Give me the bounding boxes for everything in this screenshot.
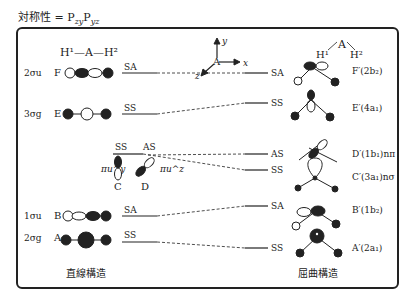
walsh-diagram: H¹—A—H² y A x z A H¹ H² [0, 0, 416, 308]
orbital-a-icon [61, 232, 111, 248]
bent-name-b: B′(1b₂) [352, 205, 383, 215]
linear-header: H¹—A—H² [60, 46, 118, 59]
bent-levels [245, 73, 268, 248]
axis-y-label: y [221, 36, 228, 46]
orbital-d-icon [134, 156, 156, 178]
sym-piuz: πu^z [159, 164, 184, 174]
bent-name-f: F′(2b₂) [352, 66, 382, 76]
orbital-b-prime-icon [292, 206, 340, 230]
bent-name-e: E′(4a₁) [352, 103, 382, 113]
orbital-e-prime-icon [291, 90, 334, 121]
orbital-b-icon [63, 211, 111, 221]
letter-e: E [54, 108, 61, 119]
orbital-f-icon [65, 68, 113, 78]
bent-caption: 屈曲構造 [298, 267, 338, 279]
label-d: AS [142, 142, 156, 152]
letter-a: A [53, 232, 62, 243]
linear-orbital-icons [61, 68, 156, 248]
letter-c: C [114, 181, 122, 192]
label-f: SA [124, 62, 137, 72]
sym-piuy: πu^y [100, 164, 126, 174]
linear-labels: 2σu F SA 3σg E SS SS AS πu^y πu^z C D 1σ… [24, 62, 184, 279]
bent-label-a: SS [271, 243, 283, 253]
bent-header-a: A [337, 38, 347, 51]
linear-caption: 直線構造 [66, 267, 106, 279]
orbital-c-prime-icon [295, 158, 338, 192]
bent-name-c: C′(3a₁)nσ [352, 172, 395, 182]
bent-header: A H¹ H² [316, 38, 363, 60]
orbital-e-icon [63, 108, 111, 120]
letter-d: D [141, 181, 149, 192]
bent-header-h1: H¹ [316, 49, 329, 60]
axis-z-label: z [194, 71, 200, 81]
bent-name-d: D′(1b₁)nπ [352, 149, 395, 159]
axes-icon [201, 38, 240, 76]
letter-f: F [54, 67, 61, 78]
bent-label-b: SA [271, 201, 284, 211]
sym-1su: 1σu [24, 211, 42, 221]
letter-b: B [54, 210, 61, 221]
orbital-a-prime-icon [296, 229, 342, 257]
bent-label-f: SA [271, 68, 284, 78]
bent-labels: SA F′(2b₂) SS E′(4a₁) AS D′(1b₁)nπ SS C′… [270, 66, 395, 279]
bent-label-d: AS [270, 149, 284, 159]
label-c: SS [115, 142, 127, 152]
bent-orbital-icons [291, 62, 342, 257]
orbital-f-prime-icon [294, 62, 339, 86]
label-a: SS [124, 230, 136, 240]
axis-center-label: A [212, 56, 221, 67]
correlation-lines [143, 73, 245, 248]
label-e: SS [124, 103, 136, 113]
bent-label-c: SS [271, 165, 283, 175]
label-b: SA [124, 205, 137, 215]
sym-3sg: 3σg [24, 109, 42, 119]
bent-header-h2: H² [350, 49, 363, 60]
sym-2sg: 2σg [24, 233, 42, 243]
axis-x-label: x [243, 58, 248, 68]
bent-name-a: A′(2a₁) [351, 243, 382, 253]
bent-label-e: SS [271, 98, 283, 108]
sym-2su: 2σu [24, 68, 42, 78]
